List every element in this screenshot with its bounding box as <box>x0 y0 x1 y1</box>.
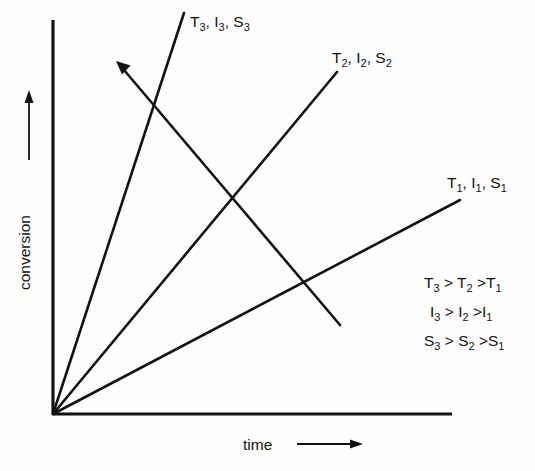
y-axis-arrow-head <box>25 90 34 103</box>
series-label-s3: T3, I3, S3 <box>190 13 250 33</box>
series-label-s2-s: S <box>375 49 385 66</box>
relation-initiator-op1: > <box>445 303 454 320</box>
series-label-s3-s: S <box>233 13 243 30</box>
relation-surfactant-op1: > <box>445 332 454 349</box>
relation-surfactant-op2: > <box>479 332 488 349</box>
relation-surfactant-sym2: S <box>458 332 468 349</box>
relation-temperature-op1: > <box>444 274 453 291</box>
series-label-s3-s-sub: 3 <box>244 21 250 33</box>
relation-surfactant: S3 > S2 >S1 <box>424 332 504 352</box>
x-axis-label: time <box>243 436 272 453</box>
trend-arrow-head <box>116 61 131 75</box>
relation-surfactant-sym1: S <box>424 332 434 349</box>
axes-group <box>53 20 452 414</box>
series-line-s2 <box>53 72 337 414</box>
trend-arrow-group <box>116 61 340 325</box>
series-labels-group: T3, I3, S3 T2, I2, S2 T1, I1, S1 <box>190 13 507 194</box>
relation-initiator: I3 > I2 >I1 <box>430 303 492 323</box>
y-axis-label: conversion <box>16 215 33 290</box>
relation-initiator-sub3: 1 <box>486 311 492 323</box>
series-label-s2: T2, I2, S2 <box>332 49 392 69</box>
series-label-s1-s-sub: 1 <box>501 182 507 194</box>
x-axis-arrow-head <box>350 440 363 449</box>
conversion-time-diagram: conversion time T3, I3, S3 T2, I2, S2 T1… <box>0 0 535 471</box>
x-axis-label-group: time <box>243 436 363 453</box>
relation-temperature: T3 > T2 >T1 <box>424 274 502 294</box>
series-line-s1 <box>53 200 460 414</box>
series-line-s3 <box>53 13 184 414</box>
diagram-canvas: conversion time T3, I3, S3 T2, I2, S2 T1… <box>0 0 535 471</box>
relation-surfactant-sym3: S <box>488 332 498 349</box>
relation-initiator-op2: > <box>473 303 482 320</box>
series-lines-group <box>53 13 460 414</box>
series-label-s1-s: S <box>490 174 500 191</box>
relation-temperature-sub3: 1 <box>495 282 501 294</box>
series-label-s2-s-sub: 2 <box>386 57 392 69</box>
relation-surfactant-sub3: 1 <box>498 340 504 352</box>
series-label-s1: T1, I1, S1 <box>447 174 507 194</box>
relations-group: T3 > T2 >T1 I3 > I2 >I1 S3 > S2 >S1 <box>424 274 504 352</box>
relation-temperature-op2: > <box>477 274 486 291</box>
y-axis-label-group: conversion <box>16 90 34 290</box>
